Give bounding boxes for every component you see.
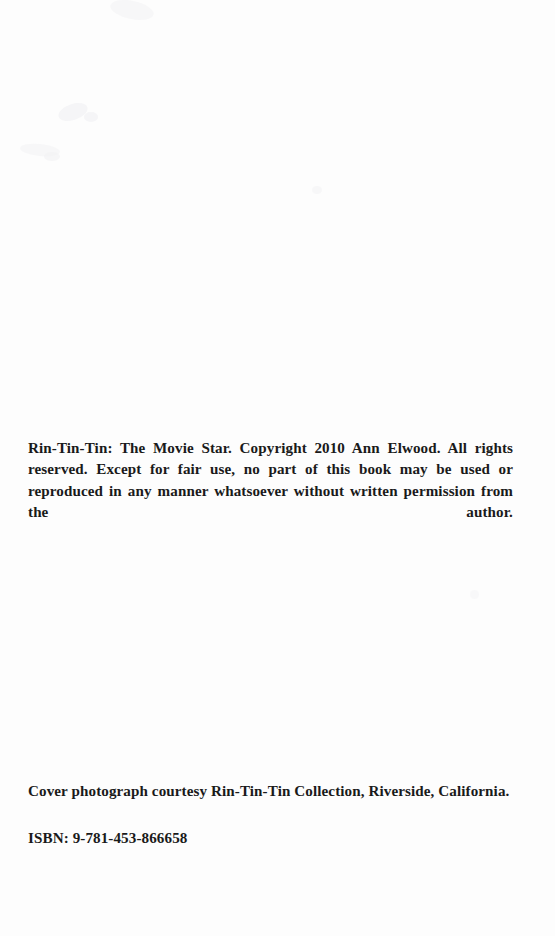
scan-artifact <box>470 590 479 599</box>
scan-artifact <box>312 186 322 194</box>
scan-artifact <box>56 100 89 124</box>
cover-photograph-credit: Cover photograph courtesy Rin-Tin-Tin Co… <box>28 781 513 802</box>
scan-artifact <box>109 0 156 23</box>
copyright-page: Rin-Tin-Tin: The Movie Star. Copyright 2… <box>0 0 555 936</box>
isbn-line: ISBN: 9-781-453-866658 <box>28 828 513 849</box>
scan-artifact <box>44 152 60 161</box>
scan-artifact <box>84 112 98 122</box>
scan-artifact <box>19 142 60 158</box>
copyright-notice: Rin-Tin-Tin: The Movie Star. Copyright 2… <box>28 438 513 544</box>
